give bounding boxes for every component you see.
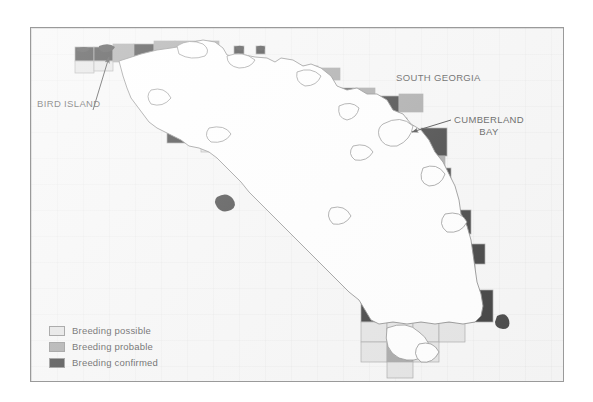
legend-label-probable: Breeding probable (72, 341, 153, 352)
legend-item-possible: Breeding possible (49, 325, 158, 336)
cell-probable (399, 94, 423, 112)
legend-label-possible: Breeding possible (72, 325, 151, 336)
legend-item-probable: Breeding probable (49, 341, 158, 352)
figure-page: SOUTH GEORGIA BIRD ISLAND CUMBERLAND BAY… (0, 0, 593, 402)
cell-possible (387, 362, 413, 378)
cell-possible (94, 61, 113, 71)
legend-swatch-confirmed (49, 358, 65, 368)
bay (177, 41, 208, 58)
cell-possible (75, 61, 94, 73)
legend-label-confirmed: Breeding confirmed (72, 357, 158, 368)
legend-item-confirmed: Breeding confirmed (49, 357, 158, 368)
label-south-georgia: SOUTH GEORGIA (396, 72, 481, 84)
label-cumberland-bay-line1: CUMBERLAND (454, 114, 524, 126)
legend-swatch-possible (49, 326, 65, 336)
cell-possible (361, 322, 387, 342)
islet-se (495, 314, 509, 329)
map-panel: SOUTH GEORGIA BIRD ISLAND CUMBERLAND BAY… (30, 27, 564, 382)
legend: Breeding possible Breeding probable Bree… (49, 325, 158, 368)
label-cumberland-bay: CUMBERLAND BAY (454, 114, 524, 138)
island-landmass (77, 40, 509, 362)
legend-swatch-probable (49, 342, 65, 352)
cell-possible (361, 342, 387, 362)
label-cumberland-bay-line2: BAY (454, 126, 524, 138)
label-bird-island: BIRD ISLAND (37, 98, 101, 110)
cell-possible (439, 322, 465, 342)
islet-offshore-south (215, 194, 235, 211)
